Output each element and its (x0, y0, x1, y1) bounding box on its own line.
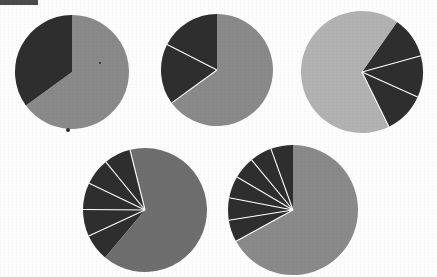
pie-3-svg (299, 9, 425, 135)
pie-1-svg (13, 13, 131, 131)
pie-chart-2 (159, 12, 275, 128)
scan-edge-artifact (0, 0, 38, 5)
pie-chart-4 (81, 146, 209, 274)
pie-chart-figure (0, 0, 437, 277)
pie-chart-3 (299, 9, 425, 135)
pie-2-svg (159, 12, 275, 128)
pie-chart-1 (13, 13, 131, 131)
pie-4-svg (81, 146, 209, 274)
scan-speck (66, 128, 70, 132)
pie-5-svg (226, 143, 360, 277)
pie-chart-5 (226, 143, 360, 277)
scan-speck (99, 62, 101, 64)
